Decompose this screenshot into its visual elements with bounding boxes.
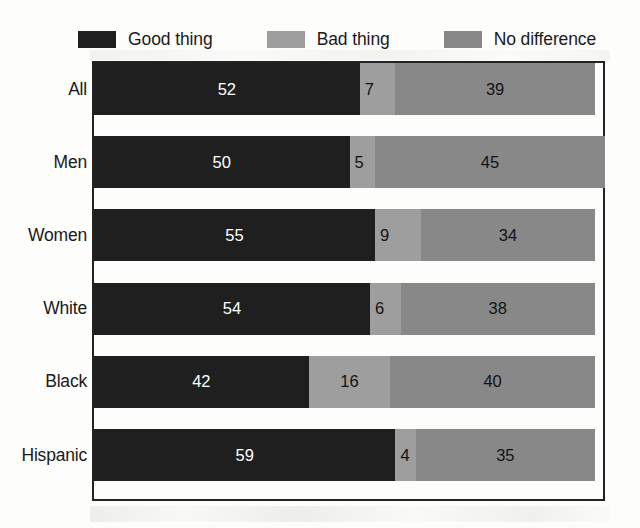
legend-swatch-good-thing <box>78 31 116 48</box>
bar-value-label: 54 <box>223 299 241 318</box>
legend-swatch-bad-thing <box>267 31 305 48</box>
bar-segment-good-thing: 50 <box>94 136 350 188</box>
bar-segment-no-difference: 39 <box>395 63 594 115</box>
chart-row: Women55934 <box>0 209 640 261</box>
bar-segment-good-thing: 59 <box>94 429 395 481</box>
chart-rows: All52739Men50545Women55934White54638Blac… <box>0 61 640 501</box>
stacked-bar: 54638 <box>94 283 595 335</box>
bar-value-label: 55 <box>225 226 243 245</box>
stacked-bar: 50545 <box>94 136 605 188</box>
legend-label-no-difference: No difference <box>494 29 596 50</box>
chart-legend: Good thing Bad thing No difference <box>0 22 640 56</box>
bar-value-label: 42 <box>192 372 210 391</box>
bar-segment-no-difference: 35 <box>416 429 595 481</box>
legend-label-bad-thing: Bad thing <box>317 29 390 50</box>
bar-value-label: 5 <box>350 153 376 172</box>
bar-value-label: 9 <box>375 226 421 245</box>
row-label-all: All <box>0 79 87 100</box>
row-label-black: Black <box>0 371 87 392</box>
legend-swatch-no-difference <box>444 31 482 48</box>
stacked-bar: 52739 <box>94 63 595 115</box>
bar-value-label: 52 <box>218 80 236 99</box>
bar-segment-bad-thing: 9 <box>375 209 421 261</box>
bar-segment-good-thing: 55 <box>94 209 375 261</box>
bar-value-label: 7 <box>360 80 396 99</box>
bar-value-label: 40 <box>483 372 501 391</box>
bar-segment-bad-thing: 5 <box>350 136 376 188</box>
row-label-hispanic: Hispanic <box>0 445 87 466</box>
bar-segment-bad-thing: 6 <box>370 283 401 335</box>
bar-value-label: 16 <box>340 372 358 391</box>
bar-value-label: 45 <box>481 153 499 172</box>
chart-row: Black421640 <box>0 356 640 408</box>
bar-segment-bad-thing: 4 <box>395 429 415 481</box>
bar-segment-no-difference: 45 <box>375 136 605 188</box>
paper-texture-bottom <box>90 506 610 522</box>
legend-item-good-thing: Good thing <box>78 29 213 50</box>
stacked-bar: 421640 <box>94 356 595 408</box>
stacked-bar: 59435 <box>94 429 595 481</box>
bar-value-label: 6 <box>370 299 401 318</box>
bar-value-label: 38 <box>489 299 507 318</box>
bar-segment-no-difference: 40 <box>390 356 594 408</box>
bar-segment-good-thing: 54 <box>94 283 370 335</box>
bar-value-label: 35 <box>496 446 514 465</box>
chart-row: Hispanic59435 <box>0 429 640 481</box>
bar-value-label: 39 <box>486 80 504 99</box>
bar-segment-no-difference: 38 <box>401 283 595 335</box>
bar-segment-no-difference: 34 <box>421 209 595 261</box>
bar-segment-good-thing: 42 <box>94 356 309 408</box>
bar-segment-bad-thing: 7 <box>360 63 396 115</box>
legend-item-bad-thing: Bad thing <box>267 29 390 50</box>
row-label-women: Women <box>0 225 87 246</box>
bar-segment-bad-thing: 16 <box>309 356 391 408</box>
bar-value-label: 50 <box>213 153 231 172</box>
legend-item-no-difference: No difference <box>444 29 596 50</box>
row-label-white: White <box>0 298 87 319</box>
chart-row: Men50545 <box>0 136 640 188</box>
stacked-bar: 55934 <box>94 209 595 261</box>
chart-row: All52739 <box>0 63 640 115</box>
bar-value-label: 4 <box>395 446 415 465</box>
bar-segment-good-thing: 52 <box>94 63 360 115</box>
row-label-men: Men <box>0 152 87 173</box>
bar-value-label: 34 <box>499 226 517 245</box>
legend-label-good-thing: Good thing <box>128 29 213 50</box>
chart-row: White54638 <box>0 283 640 335</box>
bar-value-label: 59 <box>236 446 254 465</box>
